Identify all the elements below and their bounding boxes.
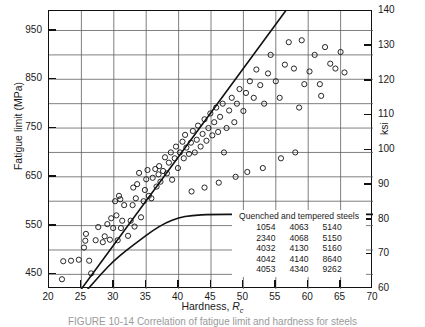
y-tick-mark [49, 127, 56, 129]
x-tick-mark [307, 280, 309, 287]
legend-cell: 4053 [249, 264, 282, 275]
x-tick-mark [177, 280, 179, 287]
x-tick-mark [210, 280, 212, 287]
y-tick-label: 550 [8, 219, 42, 230]
y-tick-mark [49, 273, 56, 275]
legend-title: Quenched and tempered steels [234, 211, 364, 221]
y2-tick-label: 130 [378, 39, 412, 50]
legend-cell: 5160 [316, 243, 349, 254]
figure-caption: FIGURE 10-14 Correlation of fatigue limi… [0, 316, 425, 327]
x-axis-title-text: Hardness, [181, 300, 229, 312]
y2-tick-label: 80 [378, 213, 412, 224]
y2-tick-mark [364, 183, 371, 185]
legend-cell: 5140 [316, 222, 349, 233]
y-axis-title: Fatigue limit (MPa) [12, 74, 24, 178]
y2-tick-label: 90 [378, 178, 412, 189]
y-tick-label: 450 [8, 267, 42, 278]
legend-cell: 4032 [249, 243, 282, 254]
x-tick-mark [112, 280, 114, 287]
legend-cell: 5150 [316, 233, 349, 244]
y2-tick-label: 120 [378, 74, 412, 85]
x-axis-symbol: R [232, 300, 240, 312]
y2-tick-label: 100 [378, 143, 412, 154]
y-tick-label: 950 [8, 24, 42, 35]
y-tick-mark [49, 224, 56, 226]
y2-axis-title: ksi [378, 95, 390, 135]
x-axis-title: Hardness, Rc [0, 300, 425, 315]
legend-cell: 1054 [249, 222, 282, 233]
x-axis-subscript: c [240, 306, 244, 315]
x-tick-mark [145, 280, 147, 287]
legend-cell: 4130 [282, 243, 315, 254]
legend-cell: 4063 [282, 222, 315, 233]
y2-tick-mark [364, 79, 371, 81]
y2-tick-mark [364, 114, 371, 116]
y2-tick-label: 140 [378, 4, 412, 15]
legend-cell: 8640 [316, 254, 349, 265]
legend-row: 105440635140 [249, 222, 348, 233]
y2-tick-mark [364, 149, 371, 151]
legend-cell: 4042 [249, 254, 282, 265]
legend-row: 405343409262 [249, 264, 348, 275]
legend-row: 403241305160 [249, 243, 348, 254]
y-tick-mark [49, 175, 56, 177]
y-tick-mark [49, 78, 56, 80]
legend-cell: 9262 [316, 264, 349, 275]
legend-table: 1054406351402340406851504032413051604042… [249, 222, 348, 275]
y2-tick-mark [364, 44, 371, 46]
x-tick-mark [339, 280, 341, 287]
legend-cell: 4140 [282, 254, 315, 265]
legend-row: 404241408640 [249, 254, 348, 265]
legend-row: 234040685150 [249, 233, 348, 244]
x-tick-mark [80, 280, 82, 287]
legend-cell: 4068 [282, 233, 315, 244]
x-tick-mark [242, 280, 244, 287]
legend-box: Quenched and tempered steels 10544063514… [232, 210, 366, 277]
y2-tick-label: 70 [378, 247, 412, 258]
y-tick-mark [49, 29, 56, 31]
x-tick-mark [274, 280, 276, 287]
legend-cell: 2340 [249, 233, 282, 244]
legend-cell: 4340 [282, 264, 315, 275]
